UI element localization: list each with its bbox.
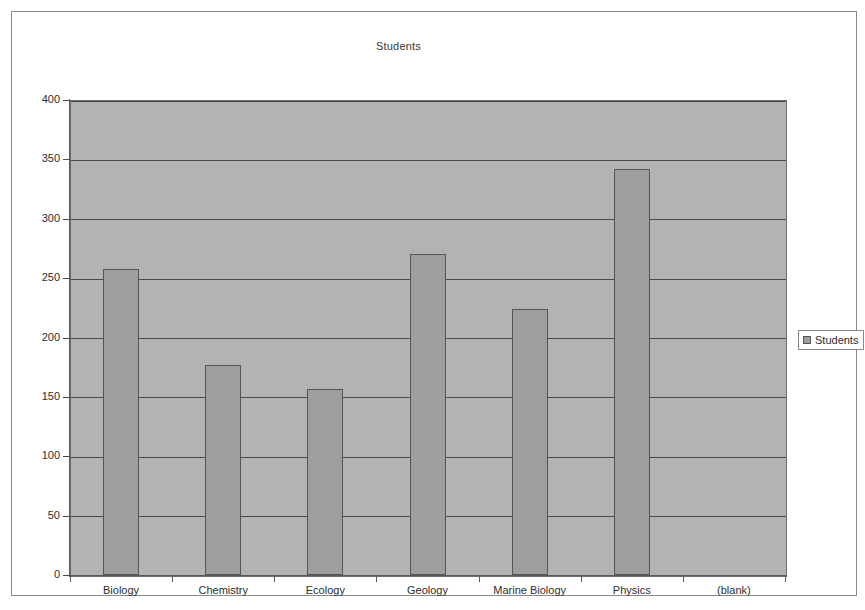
x-axis-category-label: Physics bbox=[581, 584, 683, 596]
y-axis-tick-label: 250 bbox=[16, 271, 60, 283]
gridline bbox=[71, 219, 786, 220]
x-axis-tick bbox=[172, 576, 173, 582]
y-axis-tick-label: 100 bbox=[16, 449, 60, 461]
legend-item-label: Students bbox=[815, 334, 858, 346]
square-swatch-icon bbox=[803, 336, 811, 344]
y-axis-tick bbox=[63, 219, 70, 220]
y-axis-tick bbox=[63, 516, 70, 517]
y-axis-tick-label: 400 bbox=[16, 93, 60, 105]
bar[interactable] bbox=[103, 269, 139, 575]
y-axis-tick bbox=[63, 100, 70, 101]
x-axis-tick bbox=[274, 576, 275, 582]
chart-title: Students bbox=[12, 40, 785, 52]
y-axis-tick bbox=[63, 338, 70, 339]
x-axis-category-label: Chemistry bbox=[172, 584, 274, 596]
x-axis-category-label: (blank) bbox=[683, 584, 785, 596]
bar[interactable] bbox=[307, 389, 343, 575]
x-axis-category-label: Marine Biology bbox=[479, 584, 581, 596]
x-axis-tick bbox=[683, 576, 684, 582]
y-axis-tick bbox=[63, 456, 70, 457]
y-axis-tick-label: 200 bbox=[16, 331, 60, 343]
x-axis-tick bbox=[581, 576, 582, 582]
bar[interactable] bbox=[512, 309, 548, 575]
y-axis-tick-label: 0 bbox=[16, 568, 60, 580]
chart-frame: Students 050100150200250300350400 Studen… bbox=[11, 11, 857, 596]
x-axis-line bbox=[69, 575, 786, 576]
y-axis-tick-label: 300 bbox=[16, 212, 60, 224]
y-axis-tick bbox=[63, 278, 70, 279]
x-axis-tick bbox=[70, 576, 71, 582]
y-axis-tick bbox=[63, 575, 70, 576]
bar[interactable] bbox=[205, 365, 241, 575]
x-axis-category-label: Geology bbox=[376, 584, 478, 596]
x-axis-tick bbox=[785, 576, 786, 582]
y-axis-tick bbox=[63, 397, 70, 398]
y-axis-tick-label: 350 bbox=[16, 152, 60, 164]
x-axis-tick bbox=[479, 576, 480, 582]
x-axis-tick bbox=[376, 576, 377, 582]
y-axis-tick bbox=[63, 159, 70, 160]
y-axis-tick-label: 50 bbox=[16, 509, 60, 521]
gridline bbox=[71, 101, 786, 102]
x-axis-category-label: Ecology bbox=[274, 584, 376, 596]
chart-legend[interactable]: Students bbox=[798, 330, 864, 350]
bar[interactable] bbox=[614, 169, 650, 575]
y-axis-tick-label: 150 bbox=[16, 390, 60, 402]
bar[interactable] bbox=[410, 254, 446, 575]
gridline bbox=[71, 160, 786, 161]
x-axis-category-label: Biology bbox=[70, 584, 172, 596]
y-axis-tick-labels: 050100150200250300350400 bbox=[12, 12, 60, 597]
